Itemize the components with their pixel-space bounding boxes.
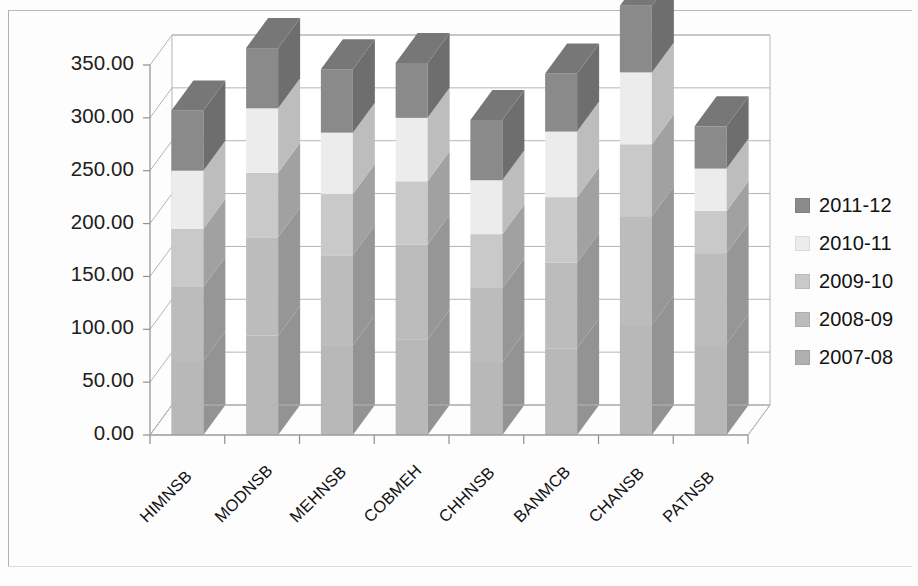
y-axis-tick-label: 250.00: [26, 157, 134, 181]
bar-segment: [620, 325, 652, 435]
bar-segment: [246, 237, 278, 335]
legend-item[interactable]: 2011-12: [795, 186, 915, 224]
bar-segment: [545, 263, 577, 349]
bar-segment: [396, 118, 428, 181]
bar-segment: [246, 48, 278, 108]
bar-segment: [695, 211, 727, 253]
y-axis-tick-label: 150.00: [26, 262, 134, 286]
y-axis: [143, 65, 150, 435]
bar-segment: [171, 171, 203, 229]
bar-column: [545, 43, 599, 435]
bar-segment: [620, 216, 652, 325]
bar-segment: [246, 173, 278, 237]
chart-legend: 2011-122010-112009-102008-092007-08: [795, 186, 915, 376]
bar-segment: [620, 144, 652, 216]
x-axis: [150, 405, 770, 444]
legend-swatch-icon: [795, 312, 810, 327]
bar-segment: [545, 197, 577, 263]
bar-column: [620, 0, 674, 435]
bar-segment: [396, 181, 428, 244]
legend-item-label: 2009-10: [819, 270, 893, 293]
legend-item-label: 2011-12: [819, 194, 892, 217]
bar-segment: [171, 361, 203, 435]
bar-segment: [470, 234, 502, 288]
stacked-column-chart: 0.0050.00100.00150.00200.00250.00300.003…: [0, 0, 918, 586]
bar-column: [246, 18, 300, 435]
bar-segment: [246, 336, 278, 435]
bar-segment: [470, 288, 502, 362]
y-axis-tick-label: 200.00: [26, 210, 134, 234]
legend-swatch-icon: [795, 236, 810, 251]
bar-segment: [620, 6, 652, 73]
bar-column: [171, 80, 225, 435]
y-axis-tick-label: 350.00: [26, 51, 134, 75]
legend-item-label: 2008-09: [819, 308, 893, 331]
bar-column: [396, 33, 450, 435]
bar-segment: [470, 362, 502, 435]
scanned-page: 0.0050.00100.00150.00200.00250.00300.003…: [0, 0, 918, 586]
bar-column: [321, 39, 375, 435]
bar-segment: [396, 340, 428, 435]
bar-segment: [396, 63, 428, 118]
legend-swatch-icon: [795, 198, 810, 213]
legend-swatch-icon: [795, 274, 810, 289]
bar-segment: [695, 344, 727, 435]
bar-segment: [695, 126, 727, 168]
y-axis-tick-label: 0.00: [26, 421, 134, 445]
y-axis-tick-label: 300.00: [26, 104, 134, 128]
bar-segment: [396, 245, 428, 340]
legend-swatch-icon: [795, 350, 810, 365]
y-axis-tick-label: 100.00: [26, 315, 134, 339]
bar-segment: [321, 133, 353, 194]
plot-floor: [150, 405, 770, 435]
bar-segment: [545, 132, 577, 198]
legend-item[interactable]: 2007-08: [795, 338, 915, 376]
bar-segment: [246, 108, 278, 172]
bar-segment: [695, 253, 727, 344]
bar-segment: [171, 229, 203, 287]
bar-segment: [470, 120, 502, 180]
bar-segment: [171, 287, 203, 361]
bar-segment: [171, 110, 203, 170]
legend-item[interactable]: 2010-11: [795, 224, 915, 262]
bar-segment: [321, 255, 353, 345]
bar-segment: [321, 194, 353, 255]
legend-item-label: 2007-08: [819, 346, 893, 369]
bar-segment: [470, 180, 502, 234]
bar-column: [695, 96, 749, 435]
legend-item[interactable]: 2009-10: [795, 262, 915, 300]
y-axis-tick-label: 50.00: [26, 368, 134, 392]
bar-segment: [321, 69, 353, 132]
legend-item-label: 2010-11: [819, 232, 892, 255]
legend-item[interactable]: 2008-09: [795, 300, 915, 338]
bar-column: [470, 90, 524, 435]
bar-segment: [695, 169, 727, 211]
bar-segment: [545, 73, 577, 131]
bar-segment: [545, 348, 577, 435]
bar-segment: [620, 72, 652, 144]
bar-segment: [321, 345, 353, 435]
